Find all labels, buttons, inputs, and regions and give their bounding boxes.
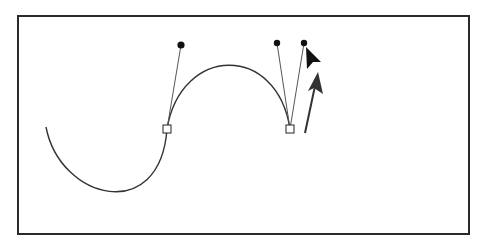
handle-line-2-in — [277, 43, 290, 129]
handle-point-icon[interactable] — [301, 40, 307, 46]
drawing-canvas[interactable] — [0, 0, 482, 245]
anchor-point-icon[interactable] — [163, 125, 171, 133]
anchor-point-icon[interactable] — [286, 125, 294, 133]
arrow-pointer-icon — [306, 47, 321, 69]
handle-line-1-out — [167, 45, 181, 129]
handle-point-icon[interactable] — [274, 40, 280, 46]
handle-point-icon[interactable] — [177, 41, 184, 48]
path-editor[interactable] — [0, 0, 482, 245]
handle-line-2-out — [290, 43, 304, 129]
drag-direction-arrow-icon — [305, 72, 323, 133]
